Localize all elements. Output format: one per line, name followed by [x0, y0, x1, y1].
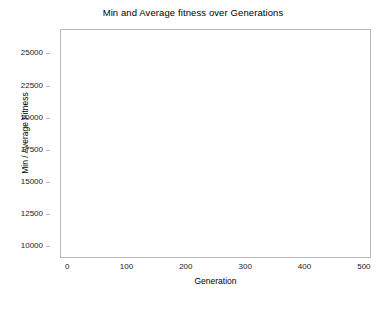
x-tick-label: 200	[179, 262, 192, 271]
x-tick-label: 100	[120, 262, 133, 271]
plot-area	[60, 29, 371, 258]
x-axis-label: Generation	[60, 276, 371, 286]
y-tick-mark	[46, 53, 50, 54]
y-tick-label: 10000	[21, 241, 43, 250]
y-tick-label: 17500	[21, 145, 43, 154]
plot-frame	[60, 29, 371, 258]
y-tick-mark	[46, 118, 50, 119]
chart-title: Min and Average fitness over Generations	[0, 7, 386, 18]
y-tick-label: 22500	[21, 81, 43, 90]
x-tick-label: 300	[238, 262, 251, 271]
y-tick-mark	[46, 86, 50, 87]
x-tick-label: 400	[298, 262, 311, 271]
y-tick-mark	[46, 214, 50, 215]
y-tick-label: 15000	[21, 177, 43, 186]
y-tick-label: 12500	[21, 209, 43, 218]
y-tick-label: 25000	[21, 48, 43, 57]
x-tick-label: 0	[65, 262, 69, 271]
y-tick-mark	[46, 246, 50, 247]
y-axis-tick-labels: 10000125001500017500200002250025000	[0, 29, 53, 258]
x-tick-label: 500	[357, 262, 370, 271]
y-tick-mark	[46, 150, 50, 151]
x-axis-tick-labels: 0100200300400500	[60, 262, 371, 276]
y-tick-mark	[46, 182, 50, 183]
y-tick-label: 20000	[21, 113, 43, 122]
chart-figure: Min and Average fitness over Generations…	[0, 0, 386, 310]
